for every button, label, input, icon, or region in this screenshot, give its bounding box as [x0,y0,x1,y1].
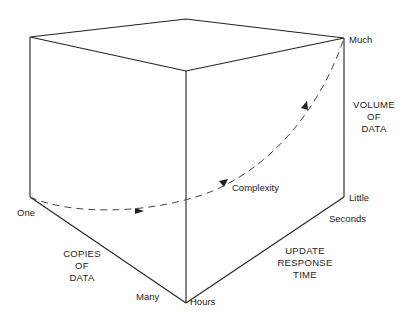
copies-high-label: Many [136,291,159,303]
complexity-label: Complexity [232,182,279,194]
volume-low-label: Little [349,192,369,204]
arrow-icon [219,179,228,187]
response-axis-title: UPDATE RESPONSE TIME [270,245,340,281]
top-face [30,19,344,71]
volume-high-label: Much [349,34,372,46]
response-high-label: Seconds [329,213,366,225]
copies-axis-title: COPIES OF DATA [52,248,112,284]
response-low-label: Hours [190,296,215,308]
arrow-icon [301,101,308,110]
arrow-icon [135,208,144,214]
volume-axis-title: VOLUME OF DATA [346,99,402,135]
copies-low-label: One [17,207,35,219]
complexity-curve [30,38,344,210]
cube-diagram: Much Little Seconds Hours One Many Compl… [0,0,409,319]
